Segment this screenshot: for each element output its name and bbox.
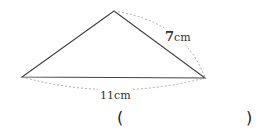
label-11cm-unit: cm — [114, 89, 131, 102]
label-11cm: 11cm — [98, 84, 133, 103]
label-7cm-unit: cm — [174, 31, 191, 44]
answer-blank[interactable] — [128, 110, 244, 128]
label-11cm-value: 11 — [100, 89, 114, 102]
answer-open-paren: ( — [117, 108, 123, 127]
label-7cm: 7cm — [164, 26, 192, 45]
answer-close-paren: ) — [246, 108, 252, 127]
label-7cm-value: 7 — [165, 29, 174, 44]
